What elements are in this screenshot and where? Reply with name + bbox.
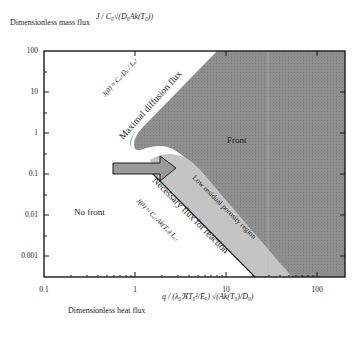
x-tick-0.1: 0.1 (29, 285, 59, 294)
y-tick-0.01: 0.01 (8, 210, 38, 219)
y-tick-1: 1 (8, 128, 38, 137)
x-axis-formula: q / (λ₀ℜT₀²/Eₐ) √(Ak(T₀)/D₀) (162, 292, 253, 301)
x-tick-1: 1 (120, 285, 150, 294)
y-tick-10: 10 (8, 87, 38, 96)
x-tick-100: 100 (302, 285, 332, 294)
y-tick-0.1: 0.1 (8, 169, 38, 178)
y-axis-formula: J / C₀√(D₀Ak(T₀)) (96, 12, 153, 21)
y-tick-0.001: 0.001 (8, 251, 38, 260)
front-label: Front (227, 135, 247, 145)
y-tick-100: 100 (8, 46, 38, 55)
maximal-formula-label: J(0) ≈ Cₐₗ Dₐ / Lₐₗ (101, 57, 139, 98)
x-axis-title: Dimensionless heat flux (68, 306, 145, 315)
y-axis-title: Dimensionless mass flux (10, 18, 90, 27)
no-front-label: No front (74, 207, 105, 217)
